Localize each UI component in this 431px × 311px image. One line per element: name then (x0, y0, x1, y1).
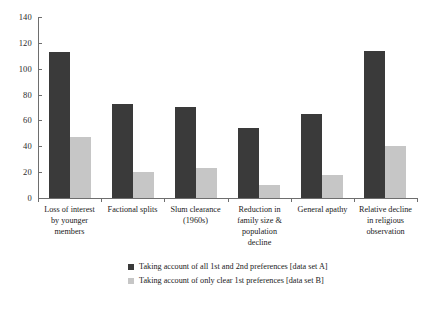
x-axis-category-label-line: Factional splits (98, 204, 167, 215)
bar-series-a (238, 128, 259, 198)
legend-item: Taking account of all 1st and 2nd prefer… (0, 262, 431, 272)
x-axis-category-label-line: Reduction in (225, 204, 294, 215)
bar-series-b (133, 172, 154, 198)
x-axis-category-label-line: population (225, 226, 294, 237)
x-axis-category-label-line: observation (351, 226, 420, 237)
x-axis-category-label: Loss of interestby youngermembers (35, 204, 104, 237)
bar-series-b (259, 185, 280, 198)
bar-series-a (112, 104, 133, 198)
x-axis-category-label: General apathy (288, 204, 357, 215)
bar-series-b (322, 175, 343, 198)
x-axis-category-label-line: Slum clearance (161, 204, 230, 215)
x-axis-category-label: Slum clearance(1960s) (161, 204, 230, 226)
x-axis-category-label: Factional splits (98, 204, 167, 215)
bar-series-a (175, 107, 196, 198)
x-axis-category-label-line: Loss of interest (35, 204, 104, 215)
bar-chart-figure: 020406080100120140 Loss of interestby yo… (0, 0, 431, 311)
bar-series-a (364, 51, 385, 198)
bar-series-a (49, 52, 70, 198)
legend-swatch-icon (128, 264, 134, 270)
x-axis-category-label-line: in religious (351, 215, 420, 226)
x-axis-category-label: Reduction infamily size &populationdecli… (225, 204, 294, 248)
x-axis-category-label-line: members (35, 226, 104, 237)
x-axis-category-label: Relative declinein religiousobservation (351, 204, 420, 237)
bar-series-b (385, 146, 406, 198)
legend-swatch-icon (128, 278, 134, 284)
legend-label: Taking account of only clear 1st prefere… (139, 276, 324, 286)
bar-series-b (70, 137, 91, 198)
x-axis-category-label-line: decline (225, 237, 294, 248)
legend-label: Taking account of all 1st and 2nd prefer… (139, 262, 328, 272)
chart-legend: Taking account of all 1st and 2nd prefer… (0, 262, 431, 290)
bar-series-b (196, 168, 217, 198)
x-axis-category-label-line: General apathy (288, 204, 357, 215)
x-axis-category-label-line: by younger (35, 215, 104, 226)
x-axis-category-label-line: family size & (225, 215, 294, 226)
legend-item: Taking account of only clear 1st prefere… (0, 276, 431, 286)
bar-series-a (301, 114, 322, 198)
x-axis-category-label-line: (1960s) (161, 215, 230, 226)
x-axis-category-label-line: Relative decline (351, 204, 420, 215)
